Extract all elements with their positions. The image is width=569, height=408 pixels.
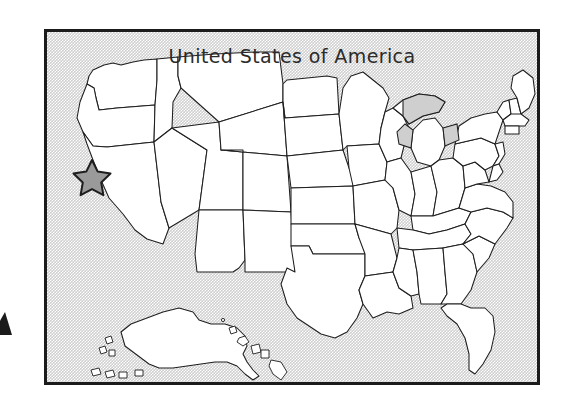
cropped-arrow-icon [0,310,13,336]
usa-map-graphic [47,32,537,382]
map-title: United States of America [47,45,537,67]
map-panel: United States of America [44,29,540,385]
